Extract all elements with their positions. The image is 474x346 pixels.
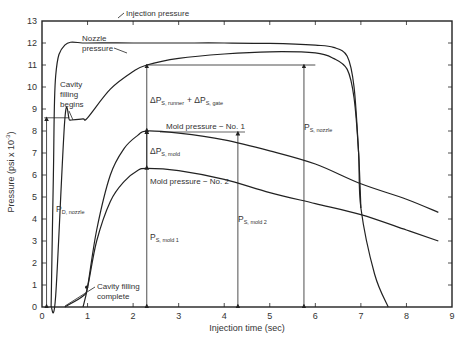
y-tick-label: 12	[27, 38, 37, 48]
y-tick-label: 5	[32, 192, 37, 202]
leader-cavity-complete	[65, 287, 95, 306]
label-injection-pressure: Injection pressure	[126, 9, 190, 18]
leader-injection	[118, 13, 124, 18]
y-tick-label: 8	[32, 126, 37, 136]
plot-border	[42, 21, 452, 307]
y-tick-label: 10	[27, 82, 37, 92]
leader-nozzle	[114, 48, 127, 53]
y-tick-label: 3	[32, 236, 37, 246]
leader-cavity-begins	[69, 111, 73, 120]
data-curves	[51, 42, 438, 313]
x-tick-label: 3	[176, 311, 181, 321]
y-tick-label: 7	[32, 148, 37, 158]
x-tick-label: 7	[358, 311, 363, 321]
x-tick-label: 8	[404, 311, 409, 321]
label-nozzle-pressure-1: Nozzle	[82, 34, 107, 43]
y-tick-label: 2	[32, 258, 37, 268]
y-axis-label: Pressure (psi x 10-3)	[5, 132, 16, 213]
label-ps-nozzle: PS, nozzle	[304, 122, 332, 133]
y-tick-label: 4	[32, 214, 37, 224]
y-tick-label: 9	[32, 104, 37, 114]
x-tick-label: 2	[131, 311, 136, 321]
label-cavity-complete-1: Cavity filling	[97, 282, 140, 291]
y-tick-label: 1	[32, 280, 37, 290]
label-mold-pressure-2: Mold pressure − No. 2	[150, 177, 229, 186]
x-axis-label: Injection time (sec)	[209, 323, 285, 333]
x-tick-label: 9	[449, 311, 454, 321]
label-delta-mold: ΔPS, mold	[150, 146, 180, 157]
y-tick-label: 0	[32, 302, 37, 312]
y-tick-label: 11	[28, 60, 37, 70]
series-injection-pressure	[51, 42, 361, 307]
x-tick-label: 5	[267, 311, 272, 321]
label-cavity-complete-2: complete	[97, 292, 130, 301]
x-tick-label: 4	[222, 311, 227, 321]
label-ps-mold-1: PS, mold 1	[150, 232, 179, 243]
x-tick-label: 6	[313, 311, 318, 321]
y-tick-label: 13	[27, 16, 37, 26]
y-tick-label: 6	[32, 170, 37, 180]
label-mold-pressure-1: Mold pressure − No. 1	[166, 122, 245, 131]
axis-ticks: 0123456789012345678910111213	[27, 16, 455, 321]
label-cavity-begins-2: filling	[60, 90, 78, 99]
label-pd-nozzle: PD, nozzle	[56, 204, 85, 215]
label-cavity-begins-1: Cavity	[60, 80, 82, 89]
label-ps-mold-2: PS, mold 2	[238, 214, 267, 225]
label-nozzle-pressure-2: pressure	[82, 44, 114, 53]
x-tick-label: 0	[39, 311, 44, 321]
x-tick-label: 1	[85, 311, 90, 321]
pressure-time-chart: 0123456789012345678910111213 Injection t…	[0, 0, 474, 346]
label-cavity-begins-3: begins	[60, 100, 84, 109]
plot-frame	[42, 21, 452, 307]
label-delta-runner-gate: ΔPS, runner+ ΔPS, gate	[150, 95, 223, 106]
